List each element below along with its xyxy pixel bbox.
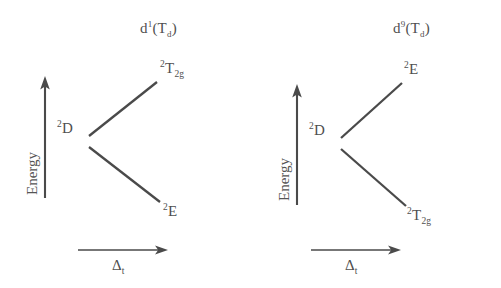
title-config: d [140, 20, 148, 36]
panel-left-graphics [0, 0, 250, 288]
upper-term-sub: 2g [175, 69, 185, 79]
free-ion-term-left: 2D [57, 120, 73, 137]
splitting-lines-left [89, 82, 160, 202]
upper-term-left: 2T2g [160, 60, 184, 77]
panel-right-title: d9(Td) [393, 20, 430, 37]
lower-term-symbol: E [168, 203, 177, 219]
lower-term-sub: 2g [422, 216, 432, 226]
delta-subscript: t [355, 266, 358, 276]
upper-term-symbol: E [409, 61, 418, 77]
title-symmetry-open: (T [405, 20, 420, 36]
panel-d9-td: d9(Td) Energy 2D 2E 2T2g Δt [251, 0, 501, 288]
upper-term-right: 2E [404, 61, 419, 78]
title-config: d [393, 20, 401, 36]
lower-term-symbol: T [412, 207, 421, 223]
title-symmetry-close: ) [172, 20, 177, 36]
delta-label-left: Δt [112, 257, 124, 274]
free-ion-symbol: D [314, 122, 325, 138]
splitting-diagram-figure: d1(Td) Energy 2D 2T2g 2E Δt [0, 0, 501, 288]
panel-d1-td: d1(Td) Energy 2D 2T2g 2E Δt [0, 0, 250, 288]
title-symmetry-close: ) [425, 20, 430, 36]
energy-axis-label-right: Energy [276, 158, 293, 201]
delta-axis-left [78, 245, 168, 254]
delta-symbol: Δ [345, 257, 355, 273]
panel-right-graphics [251, 0, 501, 288]
energy-axis-left [40, 76, 50, 198]
delta-symbol: Δ [112, 257, 122, 273]
delta-axis-right [311, 245, 401, 254]
delta-label-right: Δt [345, 257, 357, 274]
upper-term-symbol: T [165, 60, 174, 76]
lower-term-left: 2E [163, 203, 178, 220]
energy-axis-label-left: Energy [24, 152, 41, 195]
free-ion-symbol: D [62, 120, 73, 136]
energy-axis-right [292, 84, 302, 205]
lower-term-right: 2T2g [407, 207, 431, 224]
title-symmetry-open: (T [152, 20, 167, 36]
free-ion-term-right: 2D [309, 122, 325, 139]
delta-subscript: t [122, 266, 125, 276]
splitting-lines-right [341, 83, 406, 206]
panel-left-title: d1(Td) [140, 20, 177, 37]
